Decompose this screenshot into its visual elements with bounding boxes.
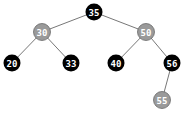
node-20: 20 <box>4 55 21 72</box>
node-label: 35 <box>89 8 100 18</box>
node-40: 40 <box>108 55 125 72</box>
node-30: 30 <box>34 24 51 41</box>
node-label: 40 <box>111 59 122 69</box>
node-label: 30 <box>37 28 48 38</box>
node-label: 33 <box>66 59 77 69</box>
node-label: 20 <box>7 59 18 69</box>
node-label: 50 <box>141 28 152 38</box>
node-33: 33 <box>63 55 80 72</box>
node-label: 55 <box>157 96 168 106</box>
node-56: 56 <box>164 55 181 72</box>
node-label: 56 <box>167 59 178 69</box>
node-35: 35 <box>86 4 103 21</box>
node-55: 55 <box>154 92 171 109</box>
node-50: 50 <box>138 24 155 41</box>
tree-diagram: 35 30 50 20 33 40 56 55 <box>0 0 185 114</box>
